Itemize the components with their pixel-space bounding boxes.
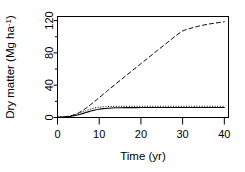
- x-axis-title: Time (yr): [120, 150, 166, 162]
- x-axis-tick-label: 0: [54, 128, 60, 140]
- y-axis-title: Dry matter (Mg ha-1): [4, 15, 16, 119]
- y-axis-tick-label: 0: [43, 114, 55, 120]
- x-axis-tick-label: 10: [93, 128, 105, 140]
- x-axis-tick-label: 30: [176, 128, 188, 140]
- x-axis-tick-label: 20: [135, 128, 147, 140]
- x-axis-tick-label: 40: [218, 128, 230, 140]
- plot-canvas: 04080120 010203040 Time (yr) Dry matter …: [0, 0, 245, 172]
- y-axis-tick-label: 80: [43, 47, 55, 59]
- chart-figure: 04080120 010203040 Time (yr) Dry matter …: [0, 0, 245, 172]
- y-axis-tick-label: 40: [43, 79, 55, 91]
- y-axis-tick-label: 120: [43, 11, 55, 29]
- y-axis-title-main: Dry matter (Mg ha: [4, 26, 16, 119]
- figure-background: [0, 0, 245, 172]
- y-axis-title-tail: ): [4, 15, 16, 19]
